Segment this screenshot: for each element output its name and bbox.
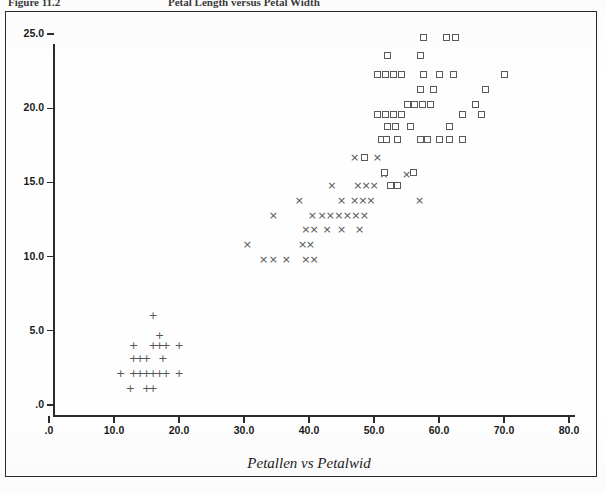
data-point-cross: × [322,224,333,235]
data-point-square [394,136,401,143]
data-point-square [394,182,401,189]
data-point-cross: × [309,254,320,265]
figure-frame: .05.010.015.020.025.0 .010.020.030.040.0… [5,11,597,477]
data-point-square [417,52,424,59]
data-point-cross: × [336,224,347,235]
data-point-square [424,136,431,143]
data-point-plus: + [148,383,159,394]
data-point-square [436,71,443,78]
data-point-cross: × [326,180,337,191]
data-point-square [452,34,459,41]
data-point-square [417,136,424,143]
data-point-square [446,136,453,143]
data-point-square [392,123,399,130]
data-point-square [430,86,437,93]
data-point-cross: × [268,210,279,221]
data-point-plus: + [161,368,172,379]
data-point-square [374,111,381,118]
page-header: Figure 11.2 Petal Length versus Petal Wi… [0,0,606,10]
data-point-square [459,111,466,118]
data-point-plus: + [148,310,159,321]
data-point-cross: × [294,195,305,206]
data-point-cross: × [305,239,316,250]
figure-heading-label: Petal Length versus Petal Width [168,0,320,8]
scatter-plot-area: ++++++++++++++++++++++××××××××××××××××××… [6,12,598,478]
data-point-square [443,34,450,41]
data-point-square [384,52,391,59]
data-point-square [436,136,443,143]
data-point-square [419,101,426,108]
data-point-plus: + [174,368,185,379]
data-point-square [417,86,424,93]
data-point-square [374,71,381,78]
data-point-square [410,169,417,176]
data-point-cross: × [414,195,425,206]
data-point-square [427,101,434,108]
data-point-plus: + [115,368,126,379]
figure-number-label: Figure 11.2 [8,0,60,8]
data-point-square [482,86,489,93]
data-point-square [420,34,427,41]
data-point-cross: × [372,152,383,163]
data-point-cross: × [268,254,279,265]
data-point-plus: + [125,383,136,394]
data-point-cross: × [359,210,370,221]
data-point-square [472,101,479,108]
data-point-cross: × [281,254,292,265]
data-point-cross: × [354,224,365,235]
data-point-plus: + [141,353,152,364]
data-point-square [382,111,389,118]
data-point-square [501,71,508,78]
data-point-square [398,71,405,78]
data-point-square [390,111,397,118]
data-point-cross: × [242,239,253,250]
data-point-square [398,111,405,118]
data-point-square [382,71,389,78]
data-point-plus: + [161,340,172,351]
data-point-plus: + [157,353,168,364]
data-point-square [459,136,466,143]
data-point-plus: + [174,340,185,351]
data-point-cross: × [309,224,320,235]
data-point-square [446,123,453,130]
data-point-square [390,71,397,78]
data-point-cross: × [349,152,360,163]
data-point-cross: × [336,195,347,206]
data-point-square [383,136,390,143]
data-point-square [420,71,427,78]
data-point-square [381,169,388,176]
data-point-cross: × [369,180,380,191]
data-point-plus: + [128,340,139,351]
data-point-square [478,111,485,118]
data-point-square [404,101,411,108]
plot-caption: Petallen vs Petalwid [6,455,606,472]
data-point-square [384,123,391,130]
data-point-square [411,101,418,108]
data-point-square [450,71,457,78]
data-point-cross: × [365,195,376,206]
data-point-square [361,154,368,161]
data-point-square [407,123,414,130]
